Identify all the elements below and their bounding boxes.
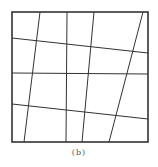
- horizontal-line-3: [12, 104, 148, 119]
- vertical-line-4: [109, 12, 143, 142]
- vertical-line-2: [66, 12, 67, 142]
- vertical-grid-lines: [24, 12, 143, 142]
- horizontal-line-1: [12, 38, 148, 53]
- distorted-grid-diagram: [0, 0, 158, 167]
- vertical-line-1: [24, 12, 40, 142]
- vertical-line-3: [82, 12, 94, 142]
- figure-caption: (b): [0, 148, 158, 157]
- horizontal-grid-lines: [12, 38, 148, 119]
